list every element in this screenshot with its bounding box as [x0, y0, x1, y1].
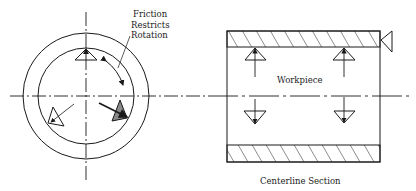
- section-outline: [227, 31, 380, 162]
- friction-leader-line: [118, 36, 130, 68]
- datum-triangle-icon: [381, 31, 392, 52]
- friction-label-line3: Rotation: [131, 30, 168, 40]
- workpiece-label: Workpiece: [277, 75, 322, 85]
- end-view: Friction Restricts Rotation: [10, 9, 208, 180]
- section-title: Centerline Section: [260, 176, 341, 186]
- top-wall-hatch: [227, 31, 380, 47]
- rotation-arrow-icon: [106, 61, 123, 85]
- lower-right-pad-triangle-icon: [334, 111, 355, 123]
- bottom-wall-hatch: [227, 145, 380, 162]
- upper-left-pad-triangle-icon: [245, 48, 266, 60]
- diagram-canvas: Friction Restricts Rotation Workpiece Ce…: [0, 0, 416, 191]
- lower-left-pad-triangle-icon: [48, 107, 64, 126]
- centerline-section: Workpiece Centerline Section: [208, 31, 410, 186]
- friction-label-line2: Restricts: [131, 20, 170, 30]
- friction-label-line1: Friction: [133, 9, 168, 19]
